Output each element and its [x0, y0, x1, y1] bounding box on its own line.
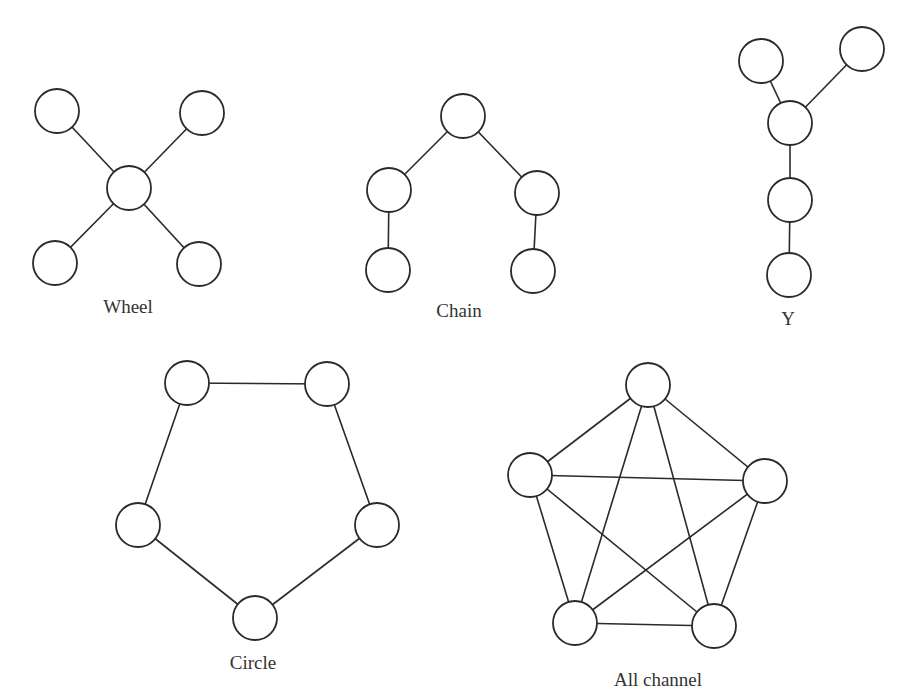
wheel-node	[33, 241, 77, 285]
all-channel-edge	[530, 475, 714, 626]
wheel-network	[33, 89, 224, 286]
all-channel-edge	[530, 475, 765, 481]
circle-edge	[255, 525, 377, 618]
all-channel-node	[626, 363, 670, 407]
all-channel-edge	[648, 385, 714, 626]
circle-node	[165, 361, 209, 405]
all-channel-edge	[575, 385, 648, 623]
circle-network-label: Circle	[230, 652, 276, 674]
all-channel-node	[692, 604, 736, 648]
chain-node	[515, 171, 559, 215]
circle-node	[116, 503, 160, 547]
wheel-node	[35, 89, 79, 133]
chain-node	[366, 248, 410, 292]
chain-node	[367, 168, 411, 212]
circle-node	[305, 362, 349, 406]
all-channel-node	[508, 453, 552, 497]
circle-node	[233, 596, 277, 640]
all-channel-node	[553, 601, 597, 645]
wheel-node	[180, 91, 224, 135]
chain-network	[366, 94, 559, 293]
chain-node	[441, 94, 485, 138]
y-network	[739, 27, 884, 297]
chain-network-label: Chain	[436, 300, 481, 322]
circle-node	[355, 503, 399, 547]
all-channel-network	[508, 363, 787, 648]
all-channel-edge	[530, 475, 575, 623]
all-channel-network-label: All channel	[614, 669, 702, 691]
all-channel-node	[743, 459, 787, 503]
y-node	[840, 27, 884, 71]
chain-node	[511, 249, 555, 293]
circle-network	[116, 361, 399, 640]
y-node	[739, 39, 783, 83]
y-network-label: Y	[781, 308, 795, 330]
wheel-network-label: Wheel	[103, 296, 153, 318]
y-node	[768, 101, 812, 145]
wheel-node	[177, 242, 221, 286]
network-diagram-canvas	[0, 0, 914, 700]
wheel-node	[107, 166, 151, 210]
y-node	[768, 178, 812, 222]
all-channel-edge	[575, 481, 765, 623]
all-channel-edge	[714, 481, 765, 626]
y-node	[767, 253, 811, 297]
